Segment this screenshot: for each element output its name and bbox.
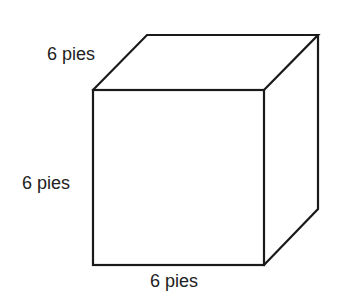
width-label: 6 pies bbox=[150, 271, 198, 291]
depth-label: 6 pies bbox=[47, 44, 95, 64]
top-face bbox=[93, 35, 318, 90]
cube-diagram: 6 pies 6 pies 6 pies bbox=[0, 0, 340, 307]
right-face bbox=[264, 35, 318, 265]
height-label: 6 pies bbox=[22, 173, 70, 193]
front-face bbox=[93, 90, 264, 265]
